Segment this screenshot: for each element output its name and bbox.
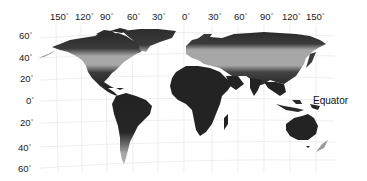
lat-label-0: 0° [26,96,34,106]
lon-label-60w: 60° [127,12,140,22]
lon-label-30e: 30° [208,12,221,22]
lat-label-40s: 40° [18,143,31,153]
lat-label-60n: 60° [19,31,32,41]
lat-label-20s: 20° [20,118,33,128]
lon-label-0: 0° [182,12,190,22]
map-graphic [0,0,367,181]
world-map: 150° 120° 90° 60° 30° 0° 30° 60° 90° 120… [0,0,367,181]
lon-label-150w: 150° [50,12,68,22]
lon-label-90e: 90° [260,12,273,22]
australia [286,114,318,140]
lon-label-30w: 30° [152,12,165,22]
lon-label-60e: 60° [234,12,247,22]
north-america [52,33,144,88]
equator-label: Equator [313,95,348,106]
lon-label-150e: 150° [306,12,324,22]
lat-label-60s: 60° [18,164,31,174]
lat-label-40n: 40° [19,53,32,63]
lon-label-90w: 90° [100,12,113,22]
south-america [112,93,152,164]
lon-label-120e: 120° [282,12,300,22]
lon-label-120w: 120° [75,12,93,22]
lat-label-20n: 20° [20,74,33,84]
africa [170,66,232,136]
